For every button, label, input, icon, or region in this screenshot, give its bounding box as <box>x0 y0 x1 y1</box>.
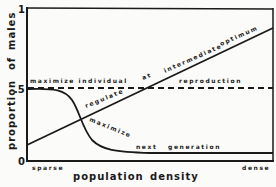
y-tick-0: 0 <box>18 156 25 167</box>
x-label-word-density: density <box>150 171 199 182</box>
plot-frame <box>26 7 274 162</box>
annotation-at: at <box>141 71 153 81</box>
chart: 1 .5 0 proportion of males sparse dense … <box>0 0 276 187</box>
annotation-generation: generation <box>168 143 221 151</box>
x-tick-dense: dense <box>242 164 270 171</box>
y-label-word-males: males <box>6 12 17 50</box>
annotation-intermediate: intermediate <box>163 42 223 74</box>
y-label-word-proportion: proportion <box>6 80 17 150</box>
annotation-next: next <box>136 143 157 150</box>
x-label-word-population: population <box>73 171 144 182</box>
series-regulate-intermediate-optimum <box>27 28 273 145</box>
annotation-regulate: regulate <box>84 87 125 110</box>
x-tick-sparse: sparse <box>32 164 64 172</box>
annotation-reproduction: reproduction <box>179 77 242 85</box>
y-label-word-of: of <box>6 57 17 70</box>
y-axis-label: proportion of males <box>6 12 17 150</box>
annotation-maximize: maximize <box>89 115 133 138</box>
y-tick-1: 1 <box>18 4 25 15</box>
annotation-maximize-individual: maximize individual <box>30 77 128 84</box>
